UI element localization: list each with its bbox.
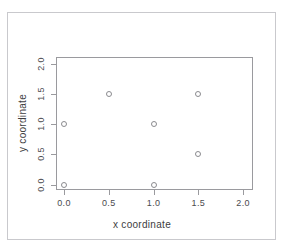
x-tick [154, 190, 155, 195]
x-tick [198, 190, 199, 195]
y-tick [51, 94, 56, 95]
data-point [106, 91, 112, 97]
x-tick [109, 190, 110, 195]
y-tick [51, 154, 56, 155]
data-point [195, 151, 201, 157]
y-tick [51, 124, 56, 125]
y-tick-label: 0.0 [36, 178, 46, 192]
x-tick-label: 0.0 [57, 198, 71, 208]
scanned-page: 0.00.51.01.52.0 0.00.51.01.52.0 x coordi… [0, 0, 284, 250]
plot-area [56, 57, 253, 190]
x-axis-title: x coordinate [0, 219, 284, 230]
x-tick-label: 1.0 [147, 198, 161, 208]
y-tick-label: 0.5 [36, 147, 46, 161]
x-tick [64, 190, 65, 195]
y-axis-title: y coordinate [17, 94, 28, 152]
x-tick-label: 1.5 [192, 198, 206, 208]
x-tick-label: 2.0 [236, 198, 250, 208]
data-point [151, 182, 157, 188]
x-tick [243, 190, 244, 195]
y-tick-label: 1.0 [36, 117, 46, 131]
y-tick [51, 185, 56, 186]
x-tick-label: 0.5 [102, 198, 116, 208]
y-tick [51, 64, 56, 65]
y-tick-label: 2.0 [36, 57, 46, 71]
data-point [195, 91, 201, 97]
data-point [61, 121, 67, 127]
scatter-plot-figure: 0.00.51.01.52.0 0.00.51.01.52.0 x coordi… [0, 0, 284, 250]
y-tick-label: 1.5 [36, 87, 46, 101]
data-point [61, 182, 67, 188]
data-point [151, 121, 157, 127]
